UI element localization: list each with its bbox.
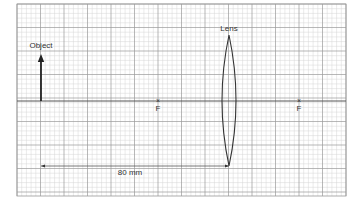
focal-point-label: F [156,104,161,113]
arrow-left-icon [41,164,45,167]
arrow-up-icon [38,54,44,62]
ray-diagram: Object Lens × F × F 80 mm [0,0,362,208]
distance-label: 80 mm [118,168,143,177]
focal-point-right: × F [297,97,302,113]
object-label: Object [29,41,53,50]
focal-point-marker-icon: × [297,97,301,104]
focal-point-left: × F [156,97,161,113]
focal-point-marker-icon: × [156,97,160,104]
object-arrow [38,54,44,101]
lens-label: Lens [220,24,237,33]
focal-point-label: F [297,104,302,113]
